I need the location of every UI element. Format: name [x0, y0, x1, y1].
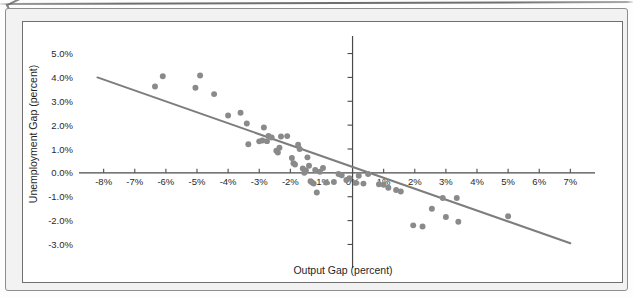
y-axis-title: Unemployment Gap (percent) [27, 65, 39, 203]
data-point [292, 162, 298, 168]
data-point [261, 125, 267, 131]
x-tick-label: -3% [251, 176, 268, 187]
x-axis-title: Output Gap (percent) [293, 264, 392, 276]
data-point [360, 181, 366, 187]
data-point [152, 84, 158, 90]
data-point [410, 222, 416, 228]
x-tick-label: -5% [189, 176, 206, 187]
data-point [297, 146, 303, 152]
data-point [304, 154, 310, 160]
data-point [264, 138, 270, 144]
data-point [353, 180, 359, 186]
data-point [420, 224, 426, 230]
y-tick-label: 5.0% [51, 48, 73, 59]
y-tick-label: -1.0% [48, 191, 73, 202]
data-point [365, 171, 371, 177]
x-tick-label: 2% [408, 176, 422, 187]
y-tick-label: -3.0% [48, 239, 73, 250]
x-tick-label: 7% [563, 176, 577, 187]
trend-line [97, 77, 570, 243]
data-point [339, 172, 345, 178]
x-tick-label: -6% [157, 176, 174, 187]
data-point [244, 120, 250, 126]
data-point [192, 85, 198, 91]
chart-frame: -8%-7%-6%-5%-4%-3%-2%-1%0%1%2%3%4%5%6%7%… [22, 21, 623, 283]
data-point [443, 214, 449, 220]
x-tick-label: -2% [282, 176, 299, 187]
y-tick-label: 4.0% [51, 72, 73, 83]
x-tick-label: -7% [126, 176, 143, 187]
data-point [320, 165, 326, 171]
x-tick-label: 6% [532, 176, 546, 187]
data-point [311, 181, 317, 187]
y-axis-ticks [348, 54, 353, 245]
x-tick-label: -8% [95, 176, 112, 187]
data-point [455, 219, 461, 225]
data-point [314, 189, 320, 195]
data-point [505, 213, 511, 219]
data-point [323, 179, 329, 185]
figure-plate: -8%-7%-6%-5%-4%-3%-2%-1%0%1%2%3%4%5%6%7%… [5, 8, 628, 291]
data-point [398, 189, 404, 195]
data-point [331, 179, 337, 185]
data-point [440, 195, 446, 201]
x-tick-label: 4% [470, 176, 484, 187]
y-axis-tick-labels: -3.0%-2.0%-1.0%0.0%1.0%2.0%3.0%4.0%5.0% [48, 48, 73, 250]
y-tick-label: -2.0% [48, 215, 73, 226]
scatter-chart: -8%-7%-6%-5%-4%-3%-2%-1%0%1%2%3%4%5%6%7%… [23, 22, 622, 282]
scanned-page: -8%-7%-6%-5%-4%-3%-2%-1%0%1%2%3%4%5%6%7%… [0, 0, 633, 297]
axis-lines [79, 36, 595, 268]
data-point [160, 73, 166, 79]
data-point [278, 134, 284, 140]
data-point [454, 195, 460, 201]
data-point [289, 155, 295, 161]
scan-top-edge [0, 1, 633, 5]
y-tick-label: 2.0% [51, 120, 73, 131]
data-point [211, 91, 217, 97]
data-point [306, 163, 312, 169]
data-point [385, 185, 391, 191]
data-point [276, 145, 282, 151]
x-tick-label: 3% [439, 176, 453, 187]
x-tick-label: -4% [220, 176, 237, 187]
data-points [152, 73, 511, 230]
data-point [225, 113, 231, 119]
data-point [197, 73, 203, 79]
data-point [245, 141, 251, 147]
y-tick-label: 0.0% [51, 167, 73, 178]
data-point [429, 206, 435, 212]
data-point [238, 110, 244, 116]
data-point [269, 135, 275, 141]
y-tick-label: 3.0% [51, 96, 73, 107]
data-point [356, 173, 362, 179]
x-tick-label: 5% [501, 176, 515, 187]
plot-svg: -8%-7%-6%-5%-4%-3%-2%-1%0%1%2%3%4%5%6%7%… [23, 22, 622, 282]
y-tick-label: 1.0% [51, 144, 73, 155]
data-point [284, 133, 290, 139]
data-point [346, 175, 352, 181]
